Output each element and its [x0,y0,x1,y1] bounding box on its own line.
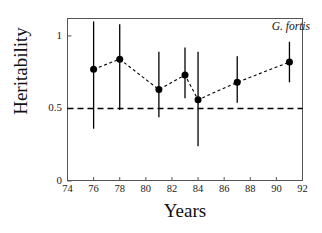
x-tick-label: 74 [57,184,79,195]
x-tick-label: 86 [213,184,235,195]
x-tick-label: 92 [292,184,314,195]
x-tick-label: 84 [187,184,209,195]
x-tick-label: 82 [161,184,183,195]
y-axis-title: Heritability [10,11,32,131]
x-tick-label: 90 [265,184,287,195]
heritability-scatter-figure: 00.51 74767880828486889092 Heritability … [0,0,322,233]
x-axis-tick-labels: 74767880828486889092 [0,0,322,233]
x-tick-label: 88 [239,184,261,195]
x-axis-title: Years [67,200,303,222]
x-tick-label: 80 [135,184,157,195]
x-tick-label: 78 [109,184,131,195]
species-annotation: G. fortis [272,20,310,32]
x-tick-label: 76 [83,184,105,195]
